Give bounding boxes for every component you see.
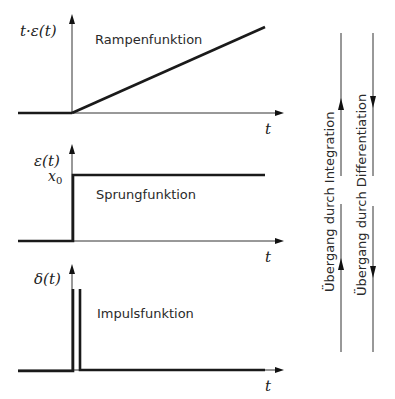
ramp-x-label: t [265, 120, 272, 138]
integration-label: Übergang durch Integration [321, 112, 337, 292]
step-y-arrow-icon [69, 144, 75, 154]
integration-arrow-up-icon-2 [338, 258, 344, 270]
integration-arrow-up-icon [338, 98, 344, 110]
ramp-title: Rampenfunktion [95, 32, 202, 47]
differentiation-arrow-down-icon [370, 96, 376, 108]
step-y-label: ε(t) [34, 152, 60, 170]
differentiation-arrow-down-icon-2 [370, 266, 376, 278]
impulse-y-arrow-icon [69, 264, 75, 274]
ramp-panel: t·ε(t) Rampenfunktion t [18, 14, 284, 138]
impulse-title: Impulsfunktion [97, 306, 194, 321]
impulse-right-edge [80, 289, 265, 370]
ramp-y-arrow-icon [69, 14, 75, 24]
impulse-panel: δ(t) Impulsfunktion t [18, 264, 284, 395]
differentiation-label: Übergang durch Differentiation [353, 94, 369, 296]
ramp-y-label: t·ε(t) [20, 22, 57, 40]
step-level-label: x0 [48, 168, 62, 186]
differentiation-transition: Übergang durch Differentiation [353, 33, 376, 352]
step-t-arrow-icon [275, 238, 284, 244]
step-x-label: t [265, 248, 272, 266]
integration-transition: Übergang durch Integration [321, 33, 344, 352]
impulse-y-label: δ(t) [34, 270, 61, 288]
impulse-left-edge [18, 289, 73, 371]
impulse-x-label: t [265, 377, 272, 395]
step-panel: ε(t) x0 Sprungfunktion t [18, 144, 284, 266]
signal-diagram: t·ε(t) Rampenfunktion t ε(t) x0 Sprungfu… [0, 0, 395, 399]
impulse-t-arrow-icon [275, 367, 284, 373]
ramp-t-arrow-icon [275, 110, 284, 116]
step-title: Sprungfunktion [96, 187, 196, 202]
